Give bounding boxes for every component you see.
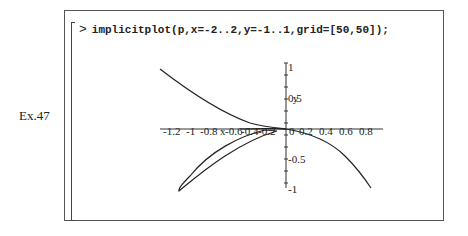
x-tick: -0.8 [200, 125, 218, 137]
y-tick: -0.5 [288, 153, 306, 165]
y-tick: 1 [288, 61, 294, 73]
x-tick: 0.4 [319, 125, 333, 137]
example-label: Ex.47 [19, 108, 50, 124]
x-tick: -1 [186, 125, 195, 137]
upper-left-branch [160, 69, 286, 129]
y-tick: -1 [288, 183, 297, 195]
x-tick: -0.4 [241, 125, 259, 137]
x-tick: -1.2 [163, 125, 180, 137]
maple-worksheet-region[interactable]: >implicitplot(p,x=-2..2,y=-1..1,grid=[50… [64, 10, 444, 221]
x-tick: 0.6 [339, 125, 353, 137]
implicit-plot: -1.2 -1 -0.8 x -0.6 -0.4 -0.2 0 0.2 0.4 … [65, 11, 445, 222]
x-tick: 0.8 [359, 125, 373, 137]
loop-branch [179, 130, 277, 191]
y-axis-label: y [293, 92, 299, 104]
